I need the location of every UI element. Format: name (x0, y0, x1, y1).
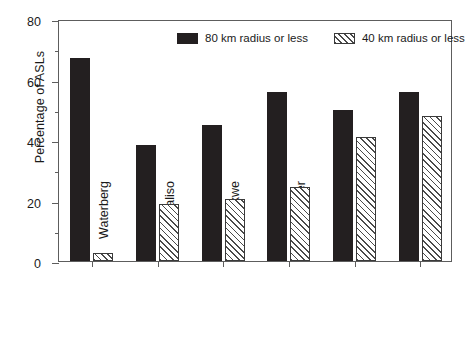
y-tick-major: 40 (52, 142, 59, 143)
legend-label: 40 km radius or less (362, 32, 465, 44)
y-tick-label: 0 (34, 257, 41, 271)
x-tick (420, 261, 421, 267)
y-tick-label: 20 (27, 197, 41, 211)
bar (267, 92, 287, 261)
legend-swatch (334, 33, 355, 44)
y-tick-label: 40 (27, 136, 41, 150)
bar (422, 116, 442, 261)
x-tick (92, 261, 93, 267)
x-tick (223, 261, 224, 267)
legend-swatch (177, 33, 198, 44)
bar (399, 92, 419, 261)
y-tick-minor (55, 233, 60, 234)
bar (70, 58, 90, 261)
x-tick (289, 261, 290, 267)
bar-chart: Percentage of ASLs 80 km radius or less4… (0, 0, 468, 358)
bar (159, 204, 179, 261)
y-axis-title: Percentage of ASLs (33, 7, 47, 207)
legend-entry: 40 km radius or less (334, 32, 465, 44)
bar (290, 187, 310, 261)
bar (225, 199, 245, 261)
y-tick-label: 60 (27, 76, 41, 90)
bar (93, 253, 113, 261)
y-tick-label: 80 (27, 15, 41, 29)
x-tick (158, 261, 159, 267)
y-tick-major: 20 (52, 203, 59, 204)
y-tick-major: 60 (52, 82, 59, 83)
y-tick-major: 80 (52, 21, 59, 22)
y-tick-minor (55, 172, 60, 173)
bar (356, 137, 376, 261)
x-tick (355, 261, 356, 267)
legend-label: 80 km radius or less (205, 32, 308, 44)
legend-entry: 80 km radius or less (177, 32, 308, 44)
plot-area: 80 km radius or less40 km radius or less… (58, 20, 452, 262)
bar (202, 125, 222, 261)
bar (136, 145, 156, 261)
chart-legend: 80 km radius or less40 km radius or less (177, 32, 465, 44)
y-tick-minor (55, 112, 60, 113)
y-tick-major: 0 (52, 263, 59, 264)
y-tick-minor (55, 51, 60, 52)
bar (333, 110, 353, 261)
